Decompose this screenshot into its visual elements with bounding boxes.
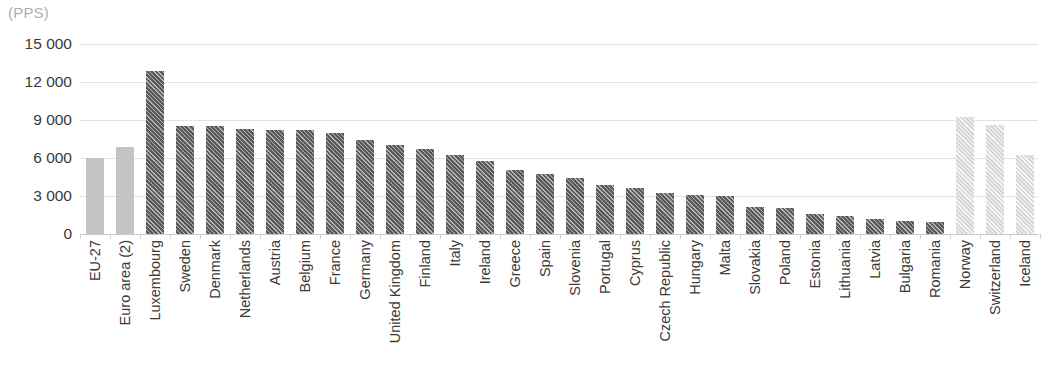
x-label-wrap: Belgium xyxy=(290,240,320,384)
x-label-wrap: Italy xyxy=(440,240,470,384)
bar[interactable] xyxy=(206,126,224,234)
x-axis-label: Italy xyxy=(448,240,463,267)
x-label-wrap: Iceland xyxy=(1010,240,1040,384)
bar[interactable] xyxy=(686,195,704,234)
x-label-wrap: Greece xyxy=(500,240,530,384)
x-axis-label: Greece xyxy=(508,240,523,288)
x-axis-label: Iceland xyxy=(1018,240,1033,287)
x-label-wrap: Finland xyxy=(410,240,440,384)
x-axis-label: Estonia xyxy=(808,240,823,288)
x-label-wrap: Switzerland xyxy=(980,240,1010,384)
x-label-wrap: Ireland xyxy=(470,240,500,384)
bar[interactable] xyxy=(836,216,854,234)
x-axis-label: EU-27 xyxy=(88,240,103,281)
x-label-wrap: Slovenia xyxy=(560,240,590,384)
x-axis-label: Spain xyxy=(538,240,553,277)
x-label-wrap: Germany xyxy=(350,240,380,384)
x-label-wrap: Poland xyxy=(770,240,800,384)
bar[interactable] xyxy=(356,140,374,234)
x-axis-label: Belgium xyxy=(298,240,313,292)
y-tick-label: 6 000 xyxy=(0,149,72,167)
x-label-wrap: EU-27 xyxy=(80,240,110,384)
x-axis-label: Germany xyxy=(358,240,373,300)
x-label-wrap: Latvia xyxy=(860,240,890,384)
bar[interactable] xyxy=(236,129,254,234)
x-axis-label: Norway xyxy=(958,240,973,289)
x-axis-label: Latvia xyxy=(868,240,883,279)
bar[interactable] xyxy=(86,158,104,234)
bar[interactable] xyxy=(896,221,914,234)
x-axis-label: Sweden xyxy=(178,240,193,292)
bars-group: EU-27Euro area (2)LuxembourgSwedenDenmar… xyxy=(80,0,1038,384)
bar[interactable] xyxy=(416,149,434,234)
x-axis-label: Ireland xyxy=(478,240,493,284)
bar[interactable] xyxy=(476,161,494,234)
x-axis-label: Netherlands xyxy=(238,240,253,318)
bar[interactable] xyxy=(926,222,944,234)
bar[interactable] xyxy=(266,130,284,235)
x-label-wrap: Norway xyxy=(950,240,980,384)
x-axis-label: Austria xyxy=(268,240,283,285)
x-axis-label: United Kingdom xyxy=(388,240,403,343)
y-tick-label: 3 000 xyxy=(0,187,72,205)
bar[interactable] xyxy=(776,208,794,234)
bar[interactable] xyxy=(566,178,584,234)
bar[interactable] xyxy=(956,117,974,234)
bar[interactable] xyxy=(536,174,554,234)
x-label-wrap: Cyprus xyxy=(620,240,650,384)
x-axis-label: Finland xyxy=(418,240,433,288)
x-axis-label: Portugal xyxy=(598,240,613,294)
x-axis-label: Slovenia xyxy=(568,240,583,296)
bar[interactable] xyxy=(176,126,194,234)
bar[interactable] xyxy=(446,155,464,234)
x-axis-label: Bulgaria xyxy=(898,240,913,293)
x-axis-label: Denmark xyxy=(208,240,223,299)
x-axis-label: Lithuania xyxy=(838,240,853,299)
x-axis-label: Slovakia xyxy=(748,240,763,295)
x-label-wrap: Czech Republic xyxy=(650,240,680,384)
x-label-wrap: Netherlands xyxy=(230,240,260,384)
x-label-wrap: Euro area (2) xyxy=(110,240,140,384)
x-label-wrap: Bulgaria xyxy=(890,240,920,384)
bar[interactable] xyxy=(656,193,674,234)
bar[interactable] xyxy=(506,170,524,234)
x-axis-label: Hungary xyxy=(688,240,703,295)
x-label-wrap: United Kingdom xyxy=(380,240,410,384)
bar[interactable] xyxy=(716,196,734,234)
x-axis-label: Romania xyxy=(928,240,943,298)
x-axis-label: Czech Republic xyxy=(658,240,673,342)
bar[interactable] xyxy=(866,219,884,234)
bar[interactable] xyxy=(326,133,344,234)
x-label-wrap: Denmark xyxy=(200,240,230,384)
x-axis-label: Poland xyxy=(778,240,793,285)
y-axis-labels: 03 0006 0009 00012 00015 000 xyxy=(0,0,72,384)
bar[interactable] xyxy=(806,214,824,234)
x-label-wrap: Lithuania xyxy=(830,240,860,384)
x-axis-label: Luxembourg xyxy=(148,240,163,321)
y-tick-label: 12 000 xyxy=(0,73,72,91)
bar[interactable] xyxy=(116,147,134,234)
x-label-wrap: Sweden xyxy=(170,240,200,384)
bar[interactable] xyxy=(296,130,314,234)
x-axis-label: Cyprus xyxy=(628,240,643,286)
x-label-wrap: Spain xyxy=(530,240,560,384)
bar[interactable] xyxy=(626,188,644,234)
x-axis-label: Euro area (2) xyxy=(118,240,133,325)
x-label-wrap: Romania xyxy=(920,240,950,384)
bar[interactable] xyxy=(596,185,614,234)
x-label-wrap: Slovakia xyxy=(740,240,770,384)
bar[interactable] xyxy=(146,71,164,234)
bar[interactable] xyxy=(986,125,1004,234)
bar[interactable] xyxy=(1016,155,1034,234)
bar[interactable] xyxy=(746,207,764,234)
x-label-wrap: Luxembourg xyxy=(140,240,170,384)
y-tick-label: 15 000 xyxy=(0,35,72,53)
bar[interactable] xyxy=(386,145,404,234)
x-label-wrap: Portugal xyxy=(590,240,620,384)
y-tick-label: 9 000 xyxy=(0,111,72,129)
x-label-wrap: Malta xyxy=(710,240,740,384)
x-axis-label: Malta xyxy=(718,240,733,275)
x-label-wrap: Estonia xyxy=(800,240,830,384)
y-tick-label: 0 xyxy=(0,225,72,243)
x-label-wrap: Austria xyxy=(260,240,290,384)
